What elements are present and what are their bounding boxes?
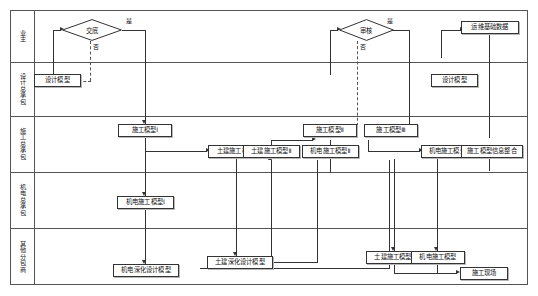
edge-cm1-branch-v <box>145 136 146 152</box>
edge-cm2-down-v <box>330 159 331 173</box>
node-mep-detailed-design-model-label: 机电深化设计模型 <box>121 267 171 273</box>
edge-civdeep-right-v <box>317 160 318 262</box>
lane-label-gc: 施工总承包 <box>10 116 34 172</box>
node-mep-construction-model-2[interactable]: 机电施工模型Ⅱ <box>302 145 359 158</box>
node-design-model-right-label: 设计模型 <box>442 77 467 83</box>
node-design-model-left-label: 设计模型 <box>45 77 70 83</box>
node-civil-construction-model-2[interactable]: 土建施工模型Ⅱ <box>243 145 300 158</box>
node-om-basic-data[interactable]: 运维基础数据 <box>461 21 519 34</box>
edge-design2-to-d2-v <box>330 30 331 75</box>
edge-d1-no-v <box>90 41 91 81</box>
node-design-model-left[interactable]: 设计模型 <box>34 74 81 87</box>
edge-integrate-down-v <box>489 159 490 171</box>
edge-civ-sub-down-v <box>394 159 395 251</box>
edge-civdeep-right-h <box>274 262 318 263</box>
edge-cm1-branch-h <box>145 151 207 152</box>
lane-separator-2 <box>10 116 528 117</box>
node-mep-construction-model-2-label: 机电施工模型Ⅱ <box>310 148 351 154</box>
lane-separator-4 <box>10 228 528 229</box>
node-model-info-integration[interactable]: 施工模型信息整合 <box>461 145 523 158</box>
flowchart-canvas: 业主 设计总承包 施工总承包 机电总承包 其他分包商 <box>0 0 538 296</box>
edge-civ1-down-v <box>236 159 237 256</box>
lane-separator-3 <box>10 172 528 173</box>
node-construction-model-3-label: 施工模型Ⅲ <box>376 127 405 133</box>
edge-civ2-to-cm2-h <box>271 140 313 141</box>
edge-om-left-v <box>441 30 442 58</box>
lane-separator-1 <box>10 62 528 63</box>
node-mep-construction-model-sub-label: 机电施工模型 <box>419 254 456 260</box>
edge-sub-site-h <box>394 273 457 274</box>
edge-om-left-h <box>441 30 461 31</box>
edge-label-d1-no: 否 <box>93 44 99 50</box>
lane-label-sub: 其他分包商 <box>10 228 34 285</box>
node-construction-site[interactable]: 施工现场 <box>460 267 508 280</box>
node-om-basic-data-label: 运维基础数据 <box>471 24 508 30</box>
decision-jiaodi-label: 交底 <box>62 19 122 41</box>
node-civil-detailed-design-model[interactable]: 土建深化设计模型 <box>207 256 273 269</box>
node-mep-construction-model-1[interactable]: 机电施工模型Ⅰ <box>117 196 174 209</box>
node-civil-construction-model-sub-label: 土建施工模型 <box>374 254 411 260</box>
node-construction-site-label: 施工现场 <box>472 270 497 276</box>
lane-label-gutter-divider <box>34 10 35 285</box>
edge-d1-yes-v <box>145 30 146 124</box>
node-mep-detailed-design-model[interactable]: 机电深化设计模型 <box>113 264 179 277</box>
edge-label-d2-no: 否 <box>360 44 366 50</box>
edge-mep3-down-v <box>437 159 438 251</box>
edge-d2-yes-v <box>409 30 410 138</box>
edge-d2-no-v <box>357 41 358 131</box>
decision-shenhe-label: 审核 <box>339 19 394 41</box>
node-mep-construction-model-sub[interactable]: 机电施工模型 <box>411 251 465 264</box>
lane-label-design: 设计总承包 <box>10 62 34 116</box>
node-construction-model-3[interactable]: 施工模型Ⅲ <box>364 124 418 137</box>
node-construction-model-2-label: 施工模型Ⅱ <box>316 127 344 133</box>
edge-civ2-to-cm2-arrow <box>312 137 316 141</box>
node-civil-construction-model-2-label: 土建施工模型Ⅱ <box>251 148 292 154</box>
edge-d1-yes-h <box>122 30 146 31</box>
decision-shenhe[interactable]: 审核 <box>339 19 394 41</box>
node-construction-model-2[interactable]: 施工模型Ⅱ <box>303 124 357 137</box>
edge-integrate-to-om-v <box>489 30 490 138</box>
lane-label-owner: 业主 <box>10 10 34 62</box>
edge-civ2-down-v <box>271 160 272 256</box>
node-construction-model-1-label: 施工模型Ⅰ <box>132 127 159 133</box>
decision-jiaodi[interactable]: 交底 <box>62 19 122 41</box>
node-model-info-integration-label: 施工模型信息整合 <box>467 148 517 154</box>
edge-design-to-d1-v <box>53 30 54 75</box>
node-civil-detailed-design-model-label: 土建深化设计模型 <box>215 259 265 265</box>
edge-cm3-h <box>368 151 420 152</box>
edge-mep1-down-v <box>145 204 146 264</box>
node-mep-construction-model-1-label: 机电施工模型Ⅰ <box>126 199 165 205</box>
lane-label-mep-gc: 机电总承包 <box>10 172 34 228</box>
edge-label-d1-yes: 是 <box>126 18 132 24</box>
node-construction-model-1[interactable]: 施工模型Ⅰ <box>118 124 172 137</box>
node-design-model-right[interactable]: 设计模型 <box>431 74 478 87</box>
